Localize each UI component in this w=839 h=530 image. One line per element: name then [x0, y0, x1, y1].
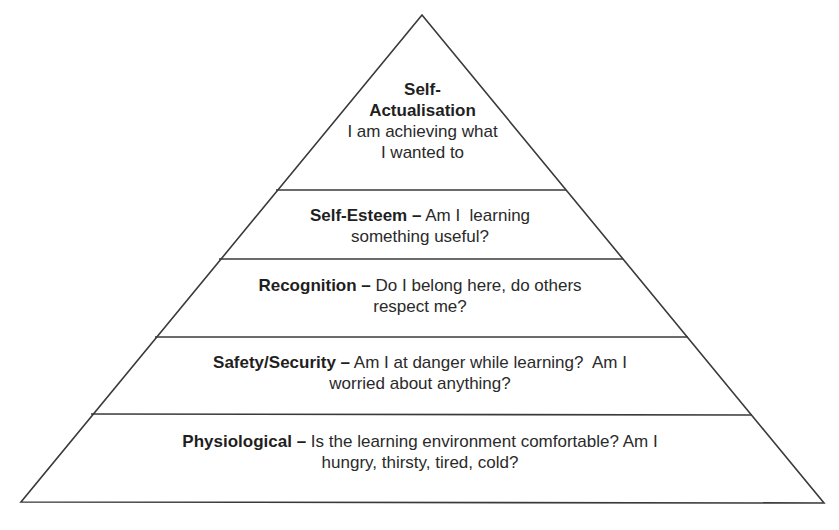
level-title: Self- — [404, 80, 441, 99]
level-desc: Am I at danger while learning? Am I — [350, 353, 627, 372]
level-desc: I wanted to — [300, 142, 545, 163]
level-self-esteem: Self-Esteem – Am I learning something us… — [240, 205, 600, 247]
level-desc: Do I belong here, do others — [371, 276, 582, 295]
level-desc: respect me? — [190, 296, 650, 317]
level-physiological: Physiological – Is the learning environm… — [80, 431, 760, 473]
level-title: Physiological – — [182, 432, 306, 451]
level-title: Recognition – — [258, 276, 370, 295]
level-desc: hungry, thirsty, tired, cold? — [80, 452, 760, 473]
level-desc: I am achieving what — [300, 121, 545, 142]
level-desc: Is the learning environment comfortable?… — [306, 432, 658, 451]
level-desc: Am I learning — [421, 206, 530, 225]
level-title: Actualisation — [369, 101, 476, 120]
level-desc: worried about anything? — [120, 373, 720, 394]
level-recognition: Recognition – Do I belong here, do other… — [190, 275, 650, 317]
level-safety-security: Safety/Security – Am I at danger while l… — [120, 352, 720, 394]
level-self-actualisation: Self- Actualisation I am achieving what … — [300, 79, 545, 163]
level-desc: something useful? — [240, 226, 600, 247]
level-title: Self-Esteem – — [310, 206, 422, 225]
level-title: Safety/Security – — [213, 353, 350, 372]
divider-4 — [91, 414, 752, 415]
